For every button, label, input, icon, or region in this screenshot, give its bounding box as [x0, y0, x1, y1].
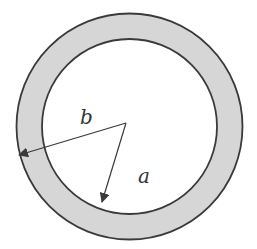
inner-radius-label: a — [138, 164, 150, 188]
outer-radius-label: b — [80, 105, 93, 129]
annulus-diagram: b a — [0, 0, 257, 249]
inner-circle — [42, 39, 217, 214]
